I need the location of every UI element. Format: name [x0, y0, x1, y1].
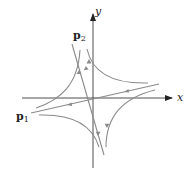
p1-label-sub: 1: [24, 115, 29, 124]
x-axis-label: x: [177, 92, 183, 103]
trajectory-lower-left: [39, 115, 99, 147]
p2-label: p2: [73, 30, 86, 43]
p1-eigenline: [31, 84, 159, 113]
p2-label-main: p: [73, 29, 81, 42]
p1-label-main: p: [16, 110, 24, 123]
y-axis-label: y: [95, 6, 101, 17]
arrow-icon: [77, 70, 82, 74]
p2-eigenline: [72, 44, 104, 155]
phase-portrait: [0, 0, 192, 177]
trajectory-upper-right: [87, 49, 148, 83]
arrow-icon: [84, 66, 89, 70]
p1-label: p1: [16, 111, 29, 124]
trajectory-upper-left: [36, 50, 80, 108]
arrow-icon: [124, 89, 129, 93]
trajectory-lower-right: [106, 90, 155, 147]
arrow-icon: [96, 132, 101, 136]
p2-label-sub: 2: [81, 34, 86, 43]
